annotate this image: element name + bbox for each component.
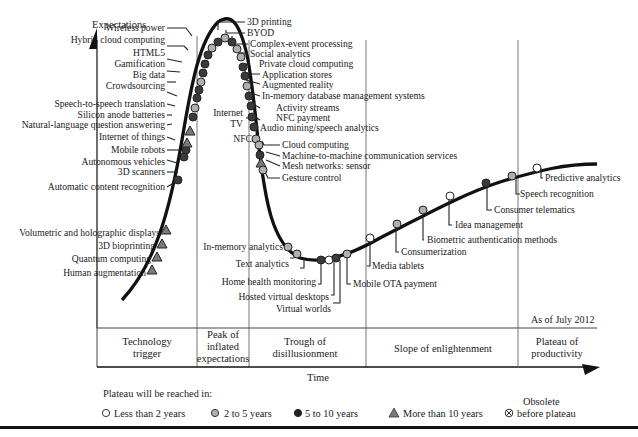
marker-crowdsourcing [195,86,203,94]
label-media-tablets: Media tablets [372,260,424,271]
phase-plateau-2: productivity [531,348,583,359]
label-byod: BYOD [247,27,274,38]
marker-idea [446,192,454,200]
x-axis-arrow-icon [582,364,600,375]
label-text-analytics: Text analytics [236,258,290,269]
label-hybrid-cloud: Hybrid cloud computing [71,34,166,45]
legend-less2: Less than 2 years [114,408,185,419]
label-quantum: Quantum computing [72,253,151,264]
label-biometric: Biometric authentication methods [427,234,557,245]
label-inmem-analytics: In-memory analytics [203,241,283,252]
label-idea: Idea management [455,219,523,230]
legend-gray-circle-icon [211,409,218,416]
marker-media-tablets [366,234,374,242]
label-nlqa: Natural-language question answering [22,119,166,130]
label-internet: Internet [213,107,243,118]
label-audio: Audio mining/speech analytics [260,122,379,133]
marker-nlqa [189,113,197,121]
marker-cloud [255,141,263,149]
label-private-cloud: Private cloud computing [259,58,354,69]
legend-2to5: 2 to 5 years [224,408,272,419]
phase-trough-1: Trough of [284,336,326,347]
label-imdbms: In-memory database management systems [262,90,425,101]
phase-trigger-2: trigger [133,348,161,359]
label-bioprinting: 3D bioprinting [98,240,155,251]
label-mobile-ota: Mobile OTA payment [353,278,437,289]
marker-internet-tv [248,113,256,121]
marker-biometric [419,206,427,214]
legend-5to10: 5 to 10 years [305,408,358,419]
marker-wireless-power [208,44,216,52]
marker-acr [174,176,182,184]
marker-big-data [197,78,205,86]
label-telematics: Consumer telematics [494,204,575,215]
marker-inmem-analytics [284,243,292,251]
phase-peak-3: expectations [197,353,249,364]
marker-silicon [191,104,199,112]
marker-speech-rec [508,172,516,180]
label-3d-printing: 3D printing [247,16,292,27]
legend-obsolete-2: before plateau [517,408,576,419]
label-tv: TV [230,118,243,129]
label-cloud: Cloud computing [282,139,349,150]
marker-nfc-payment [247,102,255,110]
label-big-data: Big data [133,69,166,80]
phase-plateau-1: Plateau of [536,336,579,347]
phase-trough-2: disillusionment [273,348,338,359]
labels-left: Wireless power Hybrid cloud computing HT… [19,22,166,278]
label-iot: Internet of things [99,131,165,142]
phase-peak-2: inflated [207,341,240,352]
marker-s2s [193,94,201,102]
marker-text-analytics [293,250,301,258]
legend-title: Plateau will be reached in: [103,388,212,399]
label-html5: HTML5 [133,47,165,58]
legend-crossed-circle-icon [505,409,513,417]
label-3d-scanners: 3D scanners [118,166,165,177]
label-home-health: Home health monitoring [222,276,317,287]
marker-social [233,45,241,53]
label-speech-rec: Speech recognition [520,188,594,199]
label-s2s: Speech-to-speech translation [54,98,165,109]
marker-consumerization [393,220,401,228]
label-hvd: Hosted virtual desktops [238,291,329,302]
label-mesh: Mesh networks: sensor [282,160,371,171]
label-consumerization: Consumerization [401,246,467,257]
marker-imdbms [243,82,251,90]
marker-ar [241,72,249,80]
marker-m2m [256,151,264,159]
marker-gamification [199,69,207,77]
phase-row: As of July 2012 Technology trigger Peak … [97,314,600,375]
phase-trigger-1: Technology [122,336,172,347]
as-of-label: As of July 2012 [531,314,595,325]
phase-peak-1: Peak of [207,329,239,340]
marker-predictive [533,164,541,172]
phase-slope: Slope of enlightenment [394,343,492,354]
marker-iot [185,126,195,135]
label-gamification: Gamification [114,58,165,69]
legend-black-circle-icon [294,409,301,416]
legend-obsolete-1: Obsolete [523,396,560,407]
marker-html5 [201,60,209,68]
marker-audio-mining [250,123,258,131]
label-wireless-power: Wireless power [105,22,165,33]
marker-human-augmentation [147,265,157,274]
marker-mesh [256,158,266,167]
marker-private-cloud [237,53,245,61]
label-crowdsourcing: Crowdsourcing [106,80,165,91]
label-acr: Automatic content recognition [48,181,165,192]
label-predictive: Predictive analytics [545,172,621,183]
label-holographic: Volumetric and holographic displays [19,227,160,238]
marker-app-stores [239,63,247,71]
marker-telematics [482,179,490,187]
marker-gesture [259,166,267,174]
legend-triangle-icon [389,408,399,417]
marker-virtual-worlds [332,254,340,262]
label-nfc: NFC [233,133,252,144]
hype-cycle-chart: Expectations As of July 2012 Technology … [0,0,638,437]
label-gesture: Gesture control [282,172,342,183]
marker-activity [245,92,253,100]
legend-white-circle-icon [102,409,109,416]
label-virtual-worlds: Virtual worlds [276,303,331,314]
marker-home-health [317,256,325,264]
x-axis-label: Time [307,372,329,383]
